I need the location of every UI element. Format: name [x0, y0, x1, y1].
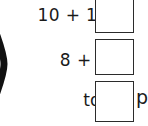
total-answer-box[interactable]	[95, 81, 134, 122]
total-unit-text: p	[136, 88, 148, 107]
answer-box-1[interactable]	[95, 0, 134, 33]
answer-box-2[interactable]	[95, 39, 134, 75]
math-worksheet-panel: 10 + 10 = 8 + 8 = total: p	[0, 0, 148, 126]
